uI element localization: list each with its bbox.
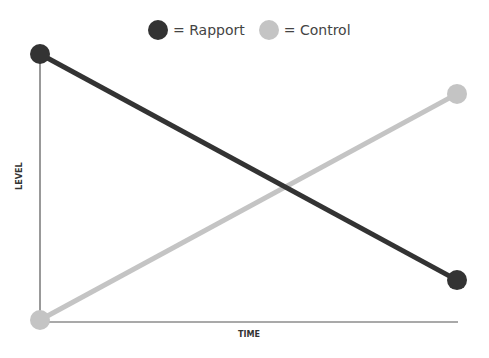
series-layer bbox=[30, 44, 467, 330]
data-point-rapport-1 bbox=[447, 270, 467, 290]
line-chart bbox=[0, 0, 489, 358]
data-point-control-1 bbox=[447, 84, 467, 104]
data-point-rapport-0 bbox=[30, 44, 50, 64]
data-point-control-0 bbox=[30, 310, 50, 330]
y-axis-label: LEVEL bbox=[14, 162, 24, 190]
x-axis-label: TIME bbox=[238, 329, 260, 339]
series-line-control bbox=[40, 94, 457, 320]
series-line-rapport bbox=[40, 54, 457, 280]
